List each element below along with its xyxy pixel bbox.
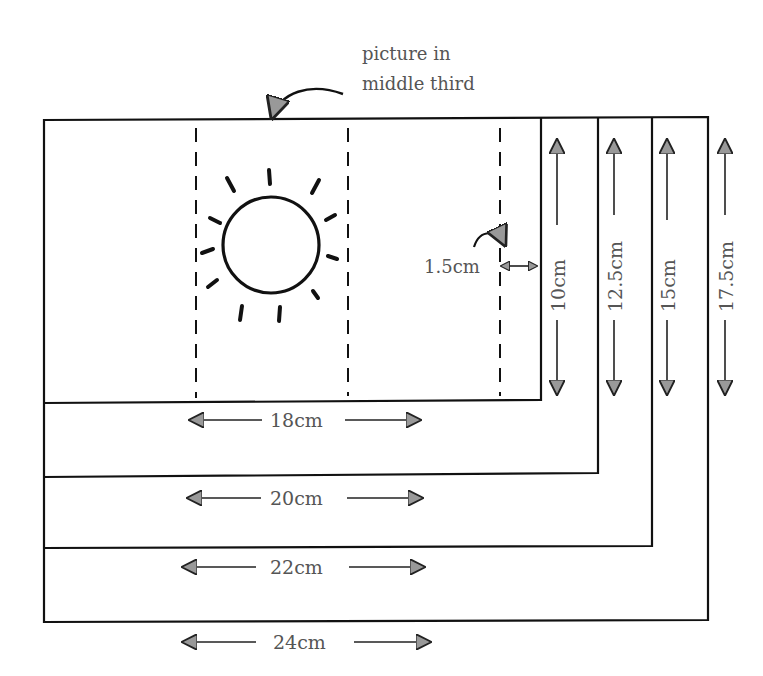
width-label-20: 20cm — [270, 487, 323, 509]
sun-icon — [202, 170, 337, 321]
width-label-24: 24cm — [273, 631, 326, 653]
card-size-diagram: picture in middle third 1.5cm 10cm 12.5c… — [0, 0, 763, 676]
margin-label: 1.5cm — [424, 256, 480, 277]
note-line-1: picture in — [362, 43, 451, 64]
rectangle-outlines — [44, 117, 708, 622]
width-dimensions — [183, 420, 430, 642]
note-line-2: middle third — [362, 73, 475, 94]
width-label-22: 22cm — [270, 556, 323, 578]
height-label-12.5: 12.5cm — [604, 241, 626, 312]
width-label-18: 18cm — [270, 409, 323, 431]
curved-arrow-icon — [272, 89, 343, 118]
height-label-10: 10cm — [547, 259, 569, 312]
height-label-17.5: 17.5cm — [715, 241, 737, 312]
height-dimensions — [557, 140, 725, 394]
height-label-15: 15cm — [657, 259, 679, 312]
